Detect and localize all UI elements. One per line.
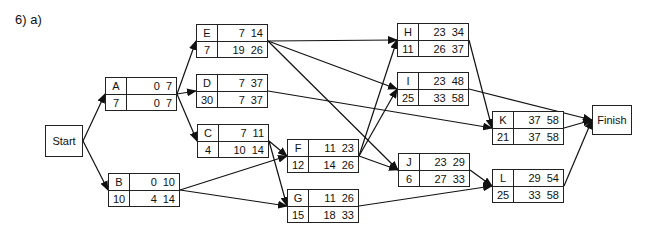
- node-bottom-row: 213758: [493, 128, 563, 145]
- activity-node-b: B01010414: [108, 173, 180, 207]
- earliest-start: 0: [151, 174, 157, 190]
- activity-node-h: H2334112637: [397, 23, 469, 57]
- late-times: 1014: [219, 142, 268, 158]
- latest-start: 33: [434, 90, 446, 106]
- late-times: 3358: [514, 187, 563, 203]
- arrow-E-H: [268, 40, 397, 41]
- latest-start: 37: [529, 129, 541, 145]
- earliest-start: 7: [240, 125, 246, 141]
- activity-node-i: I2348253358: [397, 72, 469, 106]
- activity-node-c: C71141014: [197, 124, 269, 158]
- earliest-finish: 37: [251, 75, 263, 91]
- node-bottom-row: 71926: [197, 41, 267, 58]
- node-bottom-row: 62733: [399, 170, 469, 187]
- late-times: 3758: [514, 129, 563, 145]
- arrow-A-D: [177, 91, 196, 94]
- node-top-row: K3758: [493, 112, 563, 128]
- earliest-start: 23: [434, 73, 446, 89]
- activity-node-k: K3758213758: [492, 111, 564, 145]
- arrow-J-L: [470, 170, 492, 186]
- node-bottom-row: 253358: [398, 89, 468, 106]
- duration: 10: [109, 191, 130, 207]
- node-top-row: L2954: [493, 170, 563, 186]
- arrow-F-J: [359, 156, 398, 170]
- latest-start: 19: [233, 42, 245, 58]
- latest-start: 4: [151, 191, 157, 207]
- latest-start: 10: [234, 142, 246, 158]
- node-top-row: C711: [198, 125, 268, 141]
- duration: 11: [398, 41, 419, 57]
- node-bottom-row: 121426: [288, 156, 358, 173]
- latest-start: 14: [324, 157, 336, 173]
- early-times: 010: [130, 174, 179, 190]
- node-top-row: B010: [109, 174, 179, 190]
- node-bottom-row: 253358: [493, 186, 563, 203]
- latest-start: 33: [529, 187, 541, 203]
- earliest-start: 0: [154, 78, 160, 94]
- activity-node-j: J232962733: [398, 153, 470, 187]
- activity-node-a: A07707: [105, 77, 177, 111]
- latest-start: 27: [435, 171, 447, 187]
- latest-finish: 37: [251, 92, 263, 108]
- arrow-K-Finish: [564, 120, 592, 128]
- earliest-start: 11: [324, 140, 335, 156]
- earliest-start: 7: [239, 75, 245, 91]
- earliest-start: 37: [529, 112, 541, 128]
- node-top-row: I2348: [398, 73, 468, 89]
- late-times: 07: [127, 95, 176, 111]
- activity-node-g: G1126151833: [287, 189, 359, 223]
- activity-id: C: [198, 125, 219, 141]
- activity-id: L: [493, 170, 514, 186]
- node-bottom-row: 41014: [198, 141, 268, 158]
- arrow-C-F: [269, 141, 287, 156]
- latest-finish: 14: [163, 191, 175, 207]
- earliest-finish: 7: [166, 78, 172, 94]
- node-top-row: F1123: [288, 140, 358, 156]
- node-top-row: D737: [197, 75, 267, 91]
- activity-id: D: [197, 75, 218, 91]
- duration: 15: [288, 207, 309, 223]
- earliest-start: 11: [324, 190, 335, 206]
- duration: 4: [198, 142, 219, 158]
- earliest-finish: 29: [453, 154, 465, 170]
- latest-finish: 26: [342, 157, 354, 173]
- latest-start: 26: [434, 41, 446, 57]
- latest-finish: 58: [452, 90, 464, 106]
- duration: 6: [399, 171, 420, 187]
- latest-start: 0: [154, 95, 160, 111]
- arrow-Start-A: [83, 94, 105, 141]
- activity-id: J: [399, 154, 420, 170]
- earliest-finish: 14: [251, 25, 263, 41]
- latest-finish: 37: [452, 41, 464, 57]
- finish-node: Finish: [592, 105, 632, 135]
- late-times: 3358: [419, 90, 468, 106]
- early-times: 711: [219, 125, 268, 141]
- late-times: 2637: [419, 41, 468, 57]
- arrow-A-C: [177, 94, 197, 141]
- earliest-start: 7: [239, 25, 245, 41]
- duration: 7: [106, 95, 127, 111]
- early-times: 07: [127, 78, 176, 94]
- node-bottom-row: 112637: [398, 40, 468, 57]
- node-top-row: J2329: [399, 154, 469, 170]
- earliest-start: 23: [435, 154, 447, 170]
- late-times: 414: [130, 191, 179, 207]
- duration: 7: [197, 42, 218, 58]
- early-times: 2954: [514, 170, 563, 186]
- late-times: 1926: [218, 42, 267, 58]
- earliest-start: 23: [434, 24, 446, 40]
- arrow-C-G: [269, 141, 287, 206]
- earliest-finish: 23: [342, 140, 354, 156]
- late-times: 1833: [309, 207, 358, 223]
- latest-start: 7: [239, 92, 245, 108]
- early-times: 3758: [514, 112, 563, 128]
- early-times: 1123: [309, 140, 358, 156]
- activity-node-e: E71471926: [196, 24, 268, 58]
- earliest-finish: 11: [253, 125, 264, 141]
- earliest-finish: 54: [547, 170, 559, 186]
- duration: 25: [493, 187, 514, 203]
- early-times: 714: [218, 25, 267, 41]
- late-times: 737: [218, 92, 267, 108]
- earliest-finish: 10: [163, 174, 175, 190]
- duration: 12: [288, 157, 309, 173]
